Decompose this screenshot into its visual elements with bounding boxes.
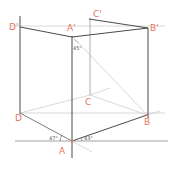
cube-diagram: 47° 43° 45° D' A' C' B' C D B A [0,0,176,170]
label-c1: C' [93,9,102,19]
angle-label-right: 43° [84,135,93,141]
edge-da [20,113,72,141]
label-a: A [59,146,66,156]
angle-label-left: 47° [49,135,58,141]
label-b: B [144,117,150,127]
label-c: C [85,97,91,107]
edge-c1b1 [89,19,148,28]
label-d: D [15,113,22,123]
vertex-dot-a [71,140,73,142]
c-extension-line [90,88,110,95]
diagonal-line [72,36,150,118]
back-bottom-left-edge [20,95,90,113]
edge-a1b1 [72,28,148,37]
angle-label-top: 45° [73,45,82,51]
label-a1: A' [67,23,76,33]
back-bottom-right-edge [90,95,147,115]
label-b1: B' [150,23,159,33]
label-d1: D' [9,22,18,32]
construction-lines [10,26,168,152]
angle-arc-left [60,135,62,141]
vertex-dot-b [146,114,148,116]
edge-d1a1 [20,27,72,37]
